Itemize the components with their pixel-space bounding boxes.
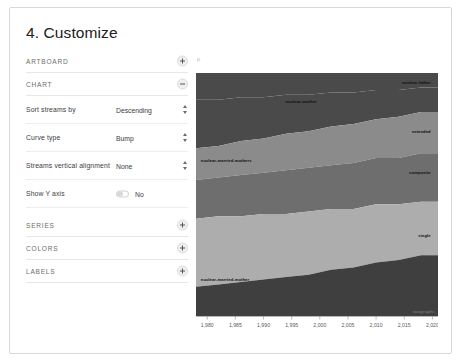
x-axis-tick-label: 1,980 [201,322,214,328]
section-header-labels[interactable]: LABELS [26,260,188,283]
section-header-artboard[interactable]: ARTBOARD [26,50,188,73]
chart-watermark: rawgraphs [413,309,435,314]
section-label-labels: LABELS [26,268,55,275]
plus-icon-series[interactable] [177,220,188,231]
field-label-show-y-axis: Show Y axis [26,190,65,197]
select-streams-vertical-alignment[interactable]: None [116,162,188,169]
stream-label-nuclear-mother: nuclear-mother [286,99,318,104]
x-axis-tick-label: 1,985 [229,322,242,328]
toggle-show-y-axis[interactable]: No [116,190,188,197]
x-axis-tick-label: 1,990 [257,322,270,328]
stream-label-extended: extended [412,129,431,134]
minus-icon-chart[interactable] [177,79,188,90]
section-label-artboard: ARTBOARD [26,58,69,65]
stepper-arrows-icon-curve[interactable] [182,133,187,142]
customize-panel: ARTBOARD CHART Sort streams by Descendin… [26,50,188,283]
field-curve-type: Curve type Bump [26,124,188,152]
field-label-streams-vertical-alignment: Streams vertical alignment [26,162,110,169]
x-axis-svg: 1,9801,9851,9901,9952,0002,0052,0102,015… [196,316,438,332]
field-show-y-axis: Show Y axis No [26,180,188,208]
field-label-curve-type: Curve type [26,134,60,141]
x-axis: 1,9801,9851,9901,9952,0002,0052,0102,015… [196,316,438,332]
stepper-arrows-icon-align[interactable] [182,161,187,170]
section-header-series[interactable]: SERIES [26,214,188,237]
select-sort-streams-by[interactable]: Descending [116,106,188,113]
field-streams-vertical-alignment: Streams vertical alignment None [26,152,188,180]
x-axis-tick-label: 2,015 [398,322,411,328]
select-value-sort-streams-by: Descending [116,106,152,113]
section-header-chart[interactable]: CHART [26,73,188,96]
page-title: 4. Customize [26,24,118,42]
plus-icon-labels[interactable] [177,266,188,277]
section-header-colors[interactable]: COLORS [26,237,188,260]
stream-label-composite: composite [409,170,431,175]
section-label-chart: CHART [26,81,52,88]
customize-screen: 4. Customize ARTBOARD CHART Sort streams… [0,0,461,361]
x-axis-tick-label: 2,010 [370,322,383,328]
switch-icon-show-y-axis[interactable] [116,190,129,197]
toggle-value-show-y-axis: No [135,190,144,197]
field-sort-streams-by: Sort streams by Descending [26,96,188,124]
stream-label-nuclear-father: nuclear-father [402,80,431,85]
stream-label-single: single [418,233,431,238]
section-label-colors: COLORS [26,245,58,252]
x-axis-tick-label: 2,005 [341,322,354,328]
x-axis-tick-label: 1,995 [285,322,298,328]
plus-icon-colors[interactable] [177,243,188,254]
select-curve-type[interactable]: Bump [116,134,188,141]
stream-label-nuclear-married-mother: nuclear-married-mother [201,277,250,282]
section-label-series: SERIES [26,222,55,229]
select-value-curve-type: Bump [116,134,134,141]
x-axis-tick-label: 2,000 [313,322,326,328]
plus-icon-artboard[interactable] [177,56,188,67]
stream-label-nuclear-married-mothers: nuclear-married-mothers [201,158,252,163]
x-axis-tick-label: 2,020 [426,322,438,328]
streamgraph-chart: nuclear-fathernuclear-motherextendedcomp… [196,73,438,316]
streamgraph-svg: nuclear-fathernuclear-motherextendedcomp… [196,73,438,316]
stepper-arrows-icon-sort[interactable] [182,105,187,114]
select-value-streams-vertical-alignment: None [116,162,132,169]
stray-mark: p [197,56,200,62]
field-label-sort-streams-by: Sort streams by [26,106,76,113]
